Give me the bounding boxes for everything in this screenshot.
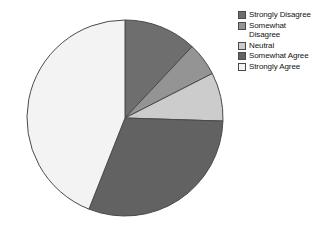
- legend-label-somewhat-disagree: Somewhat Disagree: [249, 21, 286, 40]
- chart-page: Strongly Disagree Somewhat Disagree Neut…: [0, 0, 336, 237]
- legend-label-neutral: Neutral: [249, 41, 274, 51]
- legend-item-strongly-agree[interactable]: Strongly Agree: [238, 62, 334, 72]
- legend-swatch-icon-somewhat-agree: [238, 52, 246, 60]
- legend-item-neutral[interactable]: Neutral: [238, 41, 334, 51]
- pie-chart: [22, 11, 228, 226]
- legend-item-somewhat-disagree[interactable]: Somewhat Disagree: [238, 21, 334, 40]
- legend-swatch-icon-strongly-disagree: [238, 11, 246, 19]
- legend-swatch-icon-somewhat-disagree: [238, 22, 246, 30]
- legend-label-somewhat-agree: Somewhat Agree: [249, 51, 309, 61]
- legend-swatch-icon-neutral: [238, 42, 246, 50]
- chart-legend: Strongly Disagree Somewhat Disagree Neut…: [238, 10, 334, 72]
- legend-label-strongly-agree: Strongly Agree: [249, 62, 300, 72]
- legend-item-somewhat-agree[interactable]: Somewhat Agree: [238, 51, 334, 61]
- pie-chart-svg: [22, 11, 228, 226]
- legend-item-strongly-disagree[interactable]: Strongly Disagree: [238, 10, 334, 20]
- legend-label-strongly-disagree: Strongly Disagree: [249, 10, 311, 20]
- legend-swatch-icon-strongly-agree: [238, 63, 246, 71]
- pie-slice-group: [27, 20, 223, 216]
